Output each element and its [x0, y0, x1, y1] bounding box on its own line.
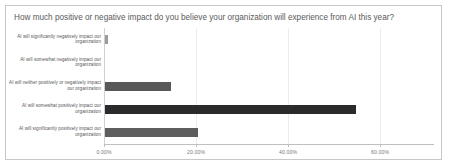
category-label: AI will significantly positively impact …: [9, 126, 101, 137]
bar: [105, 128, 198, 137]
gridline: [196, 28, 197, 144]
gridline: [380, 28, 381, 144]
bar: [105, 82, 171, 91]
category-label: AI will somewhat negatively impact our o…: [9, 57, 101, 68]
x-axis-tick: [380, 144, 381, 147]
x-axis-tick-label: 0.00%: [96, 149, 111, 155]
x-axis-line: [104, 144, 434, 145]
x-axis-tick-label: 20.00%: [187, 149, 205, 155]
bar: [105, 35, 108, 44]
plot-area: 0.00%20.00%40.00%60.00% AI will signific…: [6, 28, 443, 161]
chart-title: How much positive or negative impact do …: [14, 13, 434, 23]
category-label: AI will somewhat positively impact our o…: [9, 103, 101, 114]
x-axis-tick: [196, 144, 197, 147]
x-axis-tick-label: 60.00%: [371, 149, 389, 155]
x-axis-tick: [288, 144, 289, 147]
bar: [105, 105, 356, 114]
gridline: [288, 28, 289, 144]
x-axis-tick: [104, 144, 105, 147]
category-label: AI will significantly negatively impact …: [9, 34, 101, 45]
chart-card: How much positive or negative impact do …: [5, 5, 442, 160]
category-label: AI will neither positively or negatively…: [9, 80, 101, 91]
x-axis-tick-label: 40.00%: [279, 149, 297, 155]
